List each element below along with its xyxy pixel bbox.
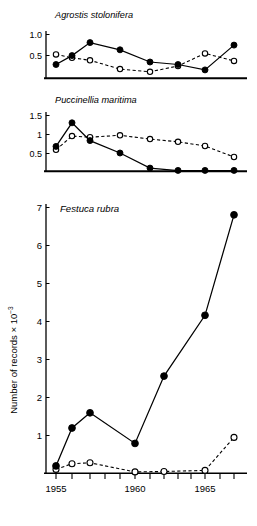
ytick-label-festuca-3: 4 [37, 316, 42, 327]
ytick-label-festuca-0: 1 [37, 430, 42, 441]
ytick-label-agrostis-1: 1.0 [29, 30, 42, 40]
panel-title-puccinellia: Puccinellia maritima [55, 95, 137, 105]
ytick-label-agrostis-0: 0.5 [29, 51, 42, 61]
ytick-label-puccinellia-1: 1 [37, 130, 42, 140]
series-open-dashed-festuca [56, 437, 234, 472]
figure-panel-group: Agrostis stolonifera 1.0 0.5 [0, 0, 257, 526]
series-filled-solid-festuca [56, 215, 234, 466]
markers-open-festuca [53, 434, 237, 475]
x-ticks-festuca [56, 474, 234, 480]
y-axis-label-exponent: −3 [7, 306, 14, 314]
multi-panel-line-chart: Agrostis stolonifera 1.0 0.5 [0, 0, 257, 526]
panel-title-agrostis: Agrostis stolonifera [54, 10, 133, 20]
panel-title-festuca: Festuca rubra [60, 203, 119, 214]
y-axis-label-text: Number of records × 10 [8, 314, 19, 414]
xtick-label-1955: 1955 [45, 483, 66, 494]
ytick-label-festuca-5: 6 [37, 240, 42, 251]
ytick-label-puccinellia-0: 0.5 [29, 149, 42, 159]
markers-filled-agrostis [53, 40, 237, 73]
y-axis-label: Number of records × 10−3 [7, 306, 19, 414]
markers-filled-festuca [53, 211, 238, 469]
panel-festuca-rubra: Festuca rubra Number of records × 10−3 7… [7, 202, 247, 494]
ytick-label-festuca-4: 5 [37, 278, 42, 289]
ytick-label-puccinellia-2: 1.5 [29, 111, 42, 121]
xtick-label-1965: 1965 [194, 483, 215, 494]
panel-puccinellia-maritima: Puccinellia maritima 1.5 1 0.5 [29, 95, 247, 173]
ytick-label-festuca-2: 3 [37, 354, 42, 365]
ytick-label-festuca-6: 7 [37, 202, 42, 213]
xtick-label-1960: 1960 [124, 483, 145, 494]
panel-agrostis-stolonifera: Agrostis stolonifera 1.0 0.5 [29, 10, 247, 78]
ytick-label-festuca-1: 2 [37, 392, 42, 403]
series-filled-solid-agrostis [56, 43, 234, 70]
